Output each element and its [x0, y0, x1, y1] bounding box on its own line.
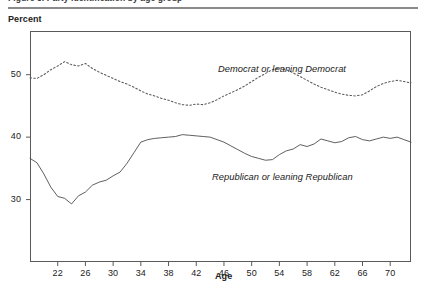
x-tick-label: 22: [48, 268, 68, 278]
x-tick-label: 50: [242, 268, 262, 278]
figure-title-clipped: Figure 3. Party identification by age gr…: [8, 0, 182, 3]
x-tick-label: 26: [75, 268, 95, 278]
x-axis-title: Age: [215, 271, 232, 281]
y-tick-label: 40: [3, 131, 21, 141]
x-tick-label: 66: [353, 268, 373, 278]
x-tick-label: 70: [380, 268, 400, 278]
y-axis-title: Percent: [8, 14, 42, 24]
x-tick-label: 42: [186, 268, 206, 278]
y-tick-label: 50: [3, 69, 21, 79]
x-tick-label: 58: [297, 268, 317, 278]
y-tick-label: 30: [3, 194, 21, 204]
x-tick-label: 38: [159, 268, 179, 278]
x-tick-label: 30: [103, 268, 123, 278]
x-tick-label: 62: [325, 268, 345, 278]
header-band: Figure 3. Party identification by age gr…: [0, 0, 426, 10]
series-label-republican: Republican or leaning Republican: [212, 172, 353, 182]
series-label-democrat: Democrat or leaning Democrat: [218, 64, 346, 74]
header-divider: [8, 7, 418, 9]
x-tick-label: 54: [269, 268, 289, 278]
x-tick-label: 34: [131, 268, 151, 278]
x-tick-marks: [58, 262, 391, 266]
